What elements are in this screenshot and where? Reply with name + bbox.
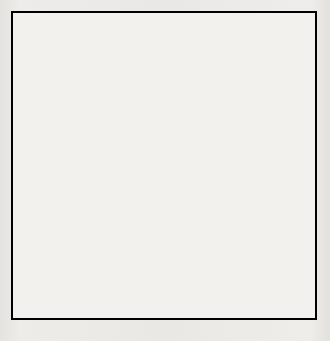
crossword-page (0, 0, 330, 341)
crossword-grid[interactable] (13, 13, 315, 318)
crossword-grid-border (11, 11, 317, 320)
